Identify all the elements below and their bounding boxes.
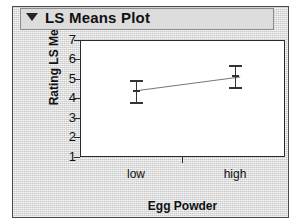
y-tick-mark	[74, 157, 80, 158]
y-tick-mark	[74, 40, 80, 41]
error-bar-cap-lower	[130, 102, 143, 104]
data-point-low	[133, 90, 140, 92]
ls-means-chart: Rating LS Means 7 6 5 4 3 2 1 low high E…	[0, 0, 301, 224]
error-bar-cap-lower	[229, 87, 242, 89]
triangle-down-icon[interactable]	[26, 13, 38, 21]
x-axis-title: Egg Powder	[80, 199, 285, 213]
x-tick-label-low: low	[110, 167, 162, 181]
error-bar-low	[136, 81, 137, 103]
screenshot-root: LS Means Plot Rating LS Means 7 6 5 4 3 …	[0, 0, 301, 224]
y-axis-tick-labels: 7 6 5 4 3 2 1	[58, 0, 76, 224]
y-tick-mark	[74, 59, 80, 60]
y-tick-mark	[74, 79, 80, 80]
y-tick-mark	[74, 137, 80, 138]
y-tick-mark	[74, 118, 80, 119]
y-tick-mark	[74, 98, 80, 99]
data-point-high	[232, 75, 239, 77]
plot-frame	[80, 40, 285, 157]
x-tick-mark	[182, 157, 183, 163]
error-bar-cap-upper	[130, 80, 143, 82]
error-bar-high	[235, 66, 236, 88]
x-tick-label-high: high	[209, 167, 261, 181]
error-bar-cap-upper	[229, 65, 242, 67]
page-title: LS Means Plot	[45, 9, 150, 26]
